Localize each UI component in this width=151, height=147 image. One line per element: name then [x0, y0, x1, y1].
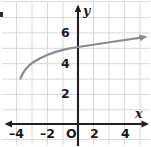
sqrt-curve: [21, 35, 148, 79]
x-tick-label-2: 2: [90, 128, 99, 141]
y-tick-label-2: 2: [61, 88, 70, 101]
plot-area: [0, 0, 151, 147]
x-tick-label-4: 4: [121, 128, 130, 141]
y-axis-label: y: [83, 5, 90, 18]
x-axis-label: x: [135, 108, 142, 121]
y-tick-label-6: 6: [61, 27, 70, 40]
y-tick-label-4: 4: [61, 58, 70, 71]
origin-label: O: [66, 128, 77, 141]
x-tick-label-minus-2: –2: [40, 128, 55, 141]
x-tick-label-minus-4: –4: [9, 128, 24, 141]
coordinate-graph-figure: 6 4 2 –4 –2 2 4 O y x: [0, 0, 151, 147]
